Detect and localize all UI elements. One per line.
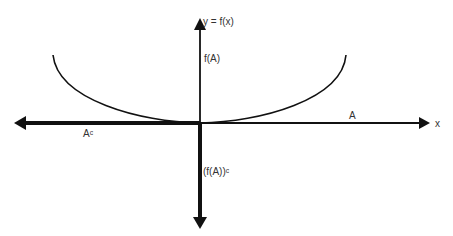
image-complement-label: (f(A))ᶜ	[203, 166, 230, 177]
y-axis-label: y = f(x)	[203, 16, 234, 27]
x-axis-left-arrow-icon	[14, 116, 26, 130]
x-axis-label: x	[435, 118, 440, 129]
set-complement-label: Aᶜ	[83, 128, 94, 139]
y-axis-down-arrow-icon	[193, 217, 207, 229]
x-axis-right-arrow-icon	[419, 117, 430, 129]
set-label: A	[349, 110, 356, 121]
function-image-diagram: y = f(x) x f(A) A Aᶜ (f(A))ᶜ	[0, 0, 453, 236]
image-label: f(A)	[204, 53, 220, 64]
